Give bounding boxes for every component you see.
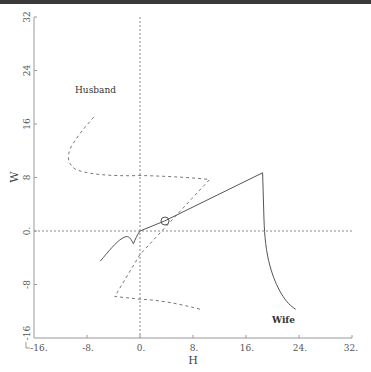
phase-plot: 32 24 16 8 0. -8 -16 -16. -8. 0. 8. 16. … <box>0 0 371 372</box>
y-tick-neg16: -16 <box>22 325 32 340</box>
x-tick-0: 0. <box>137 343 146 353</box>
x-tick-neg8: -8. <box>82 343 94 353</box>
y-axis-title: W <box>8 171 21 183</box>
x-tick-neg16: -16. <box>30 343 47 353</box>
x-axis-title: H <box>188 354 198 367</box>
x-tick-8: 8. <box>190 343 199 353</box>
reference-lines <box>34 17 352 338</box>
y-tick-neg8: -8 <box>22 280 32 289</box>
x-tick-16: 16. <box>240 343 254 353</box>
y-tick-labels: 32 24 16 8 0. -8 -16 <box>22 11 32 340</box>
husband-curve <box>68 117 209 310</box>
y-tick-16: 16 <box>22 118 32 130</box>
x-tick-labels: -16. -8. 0. 8. 16. 24. 32. <box>30 343 358 353</box>
y-tick-24: 24 <box>22 65 32 77</box>
wife-curve <box>100 173 295 309</box>
y-tick-0: 0. <box>22 227 32 236</box>
wife-label: Wife <box>271 315 295 325</box>
x-tick-32: 32. <box>344 343 358 353</box>
x-tick-24: 24. <box>293 343 307 353</box>
husband-label: Husband <box>75 85 116 95</box>
axes <box>26 17 352 348</box>
y-tick-32: 32 <box>22 11 32 22</box>
y-tick-8: 8 <box>22 174 32 180</box>
